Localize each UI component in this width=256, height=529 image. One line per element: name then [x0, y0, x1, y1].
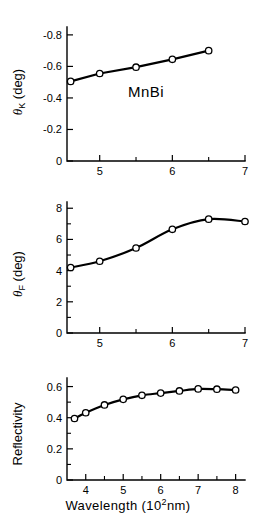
- reflectivity-data-markers: [71, 386, 239, 422]
- figure-root: 0-0.2-0.4-0.6-0.8 567 MnBi θK (deg) 0246…: [0, 0, 256, 529]
- reflectivity-data-point: [83, 410, 89, 416]
- faraday-rotation-y-tick-label: 0: [56, 327, 62, 339]
- kerr-rotation-y-tick-label: 0: [56, 155, 62, 167]
- reflectivity-data-point: [232, 387, 238, 393]
- reflectivity-x-tick-label: 4: [83, 484, 89, 496]
- x-axis-caption-head: Wavelength (10: [65, 498, 161, 513]
- sample-annotation-mnbi: MnBi: [128, 83, 164, 100]
- chart-panel-kerr-rotation: 0-0.2-0.4-0.6-0.8 567 MnBi θK (deg): [0, 0, 256, 182]
- kerr-rotation-y-tick-label: -0.4: [43, 92, 62, 104]
- kerr-rotation-y-tick-label: -0.8: [43, 29, 62, 41]
- kerr-rotation-x-tick-label: 7: [242, 165, 248, 177]
- reflectivity-y-tick-label: 0.4: [47, 412, 62, 424]
- kerr-rotation-svg: 0-0.2-0.4-0.6-0.8 567 MnBi θK (deg): [0, 0, 256, 182]
- faraday-rotation-x-tick-label: 7: [242, 337, 248, 349]
- reflectivity-y-tick-label: 0.2: [47, 443, 62, 455]
- reflectivity-data-point: [214, 386, 220, 392]
- faraday-rotation-data-point: [242, 218, 248, 224]
- kerr-rotation-data-point: [96, 70, 102, 76]
- reflectivity-data-point: [101, 402, 107, 408]
- faraday-y-axis-title: θF (deg): [10, 251, 27, 297]
- kerr-rotation-y-tick-label: -0.6: [43, 60, 62, 72]
- x-axis-caption: Wavelength (102nm): [0, 497, 256, 513]
- reflectivity-y-tick-label: 0.6: [47, 381, 62, 393]
- x-axis-caption-tail: nm): [167, 498, 191, 513]
- reflectivity-y-tick-labels: 00.20.40.6: [47, 381, 62, 486]
- kerr-y-axis-title: θK (deg): [10, 69, 27, 115]
- reflectivity-x-tick-label: 6: [158, 484, 164, 496]
- faraday-rotation-y-tick-label: 8: [56, 202, 62, 214]
- kerr-rotation-x-tick-label: 5: [97, 165, 103, 177]
- faraday-rotation-svg: 02468 567 θF (deg): [0, 182, 256, 364]
- kerr-x-tick-labels: 567: [97, 165, 248, 177]
- reflectivity-y-tick-label: 0: [56, 474, 62, 486]
- kerr-data-markers: [67, 47, 211, 84]
- reflectivity-x-tick-label: 7: [195, 484, 201, 496]
- faraday-rotation-data-point: [169, 226, 175, 232]
- reflectivity-data-point: [157, 390, 163, 396]
- reflectivity-y-axis-title: Reflectivity: [10, 402, 25, 465]
- faraday-rotation-x-tick-label: 6: [169, 337, 175, 349]
- svg-text:θK (deg): θK (deg): [10, 69, 27, 115]
- faraday-axis-frame: [67, 202, 245, 333]
- kerr-rotation-data-point: [169, 56, 175, 62]
- chart-panel-faraday-rotation: 02468 567 θF (deg): [0, 182, 256, 364]
- faraday-x-tick-labels: 567: [97, 337, 248, 349]
- faraday-x-ticks: [100, 327, 245, 333]
- reflectivity-x-ticks: [86, 474, 236, 480]
- kerr-rotation-y-tick-label: -0.2: [43, 123, 62, 135]
- faraday-rotation-y-tick-label: 6: [56, 233, 62, 245]
- faraday-rotation-data-point: [67, 264, 73, 270]
- kerr-rotation-data-point: [205, 47, 211, 53]
- faraday-rotation-data-point: [205, 216, 211, 222]
- reflectivity-x-tick-label: 8: [233, 484, 239, 496]
- kerr-rotation-data-point: [67, 78, 73, 84]
- faraday-rotation-y-tick-label: 4: [56, 265, 62, 277]
- kerr-rotation-x-tick-label: 6: [169, 165, 175, 177]
- reflectivity-data-point: [139, 392, 145, 398]
- faraday-rotation-y-tick-label: 2: [56, 296, 62, 308]
- reflectivity-data-line: [74, 389, 235, 419]
- kerr-y-tick-labels: 0-0.2-0.4-0.6-0.8: [43, 29, 62, 167]
- kerr-rotation-data-point: [133, 64, 139, 70]
- reflectivity-x-tick-label: 5: [120, 484, 126, 496]
- reflectivity-svg: 00.20.40.6 45678 Reflectivity: [0, 364, 256, 504]
- reflectivity-y-axis-title-text: Reflectivity: [10, 402, 25, 465]
- reflectivity-data-point: [71, 415, 77, 421]
- svg-text:θF (deg): θF (deg): [10, 251, 27, 297]
- reflectivity-data-point: [120, 396, 126, 402]
- faraday-rotation-data-point: [133, 245, 139, 251]
- faraday-rotation-data-point: [96, 258, 102, 264]
- reflectivity-data-point: [195, 386, 201, 392]
- kerr-x-ticks: [100, 155, 245, 161]
- faraday-rotation-x-tick-label: 5: [97, 337, 103, 349]
- faraday-y-tick-labels: 02468: [56, 202, 62, 339]
- reflectivity-x-tick-labels: 45678: [83, 484, 239, 496]
- kerr-y-ticks: [67, 35, 73, 161]
- reflectivity-data-point: [176, 388, 182, 394]
